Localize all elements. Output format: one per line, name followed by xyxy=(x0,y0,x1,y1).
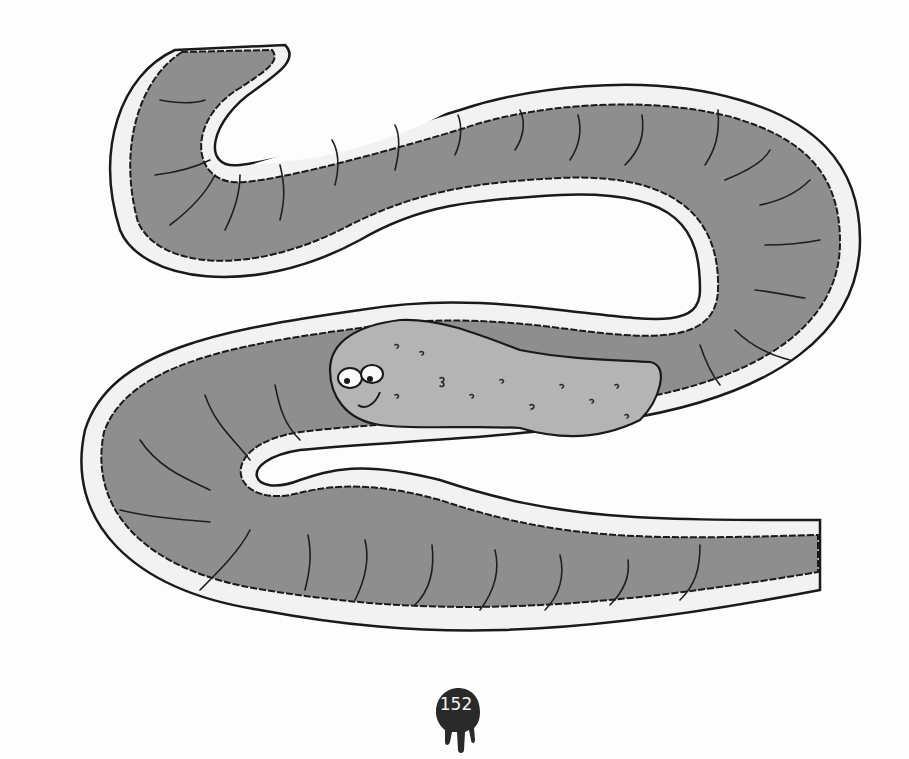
left-eye-icon xyxy=(338,368,362,388)
intestine-illustration xyxy=(0,0,909,759)
page-number: 152 xyxy=(430,694,482,714)
